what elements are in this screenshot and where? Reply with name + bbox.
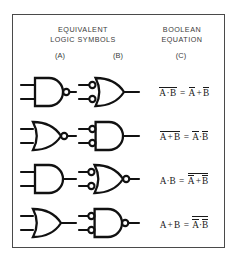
table-row: A·B = A+B <box>13 71 224 115</box>
equation-row1: A·B = A+B <box>159 87 209 98</box>
equation-row3: A·B = A+B <box>160 173 209 187</box>
column-label-b: (B) <box>103 51 133 60</box>
equation-cell-row2: A+B = A·B <box>145 115 223 159</box>
gate-symbol-b-row4 <box>79 204 139 242</box>
column-letter-row: (A) (B) (C) <box>13 51 224 65</box>
gate-symbol-a-row3 <box>19 160 77 198</box>
equation-cell-row4: A+B = A·B <box>145 202 223 246</box>
table-row: A·B = A+B <box>13 158 224 202</box>
equation-row2: A+B = A·B <box>160 131 209 142</box>
header-title-logic-symbols: EQUIVALENT LOGIC SYMBOLS <box>21 25 145 44</box>
gate-symbol-a-row2 <box>19 117 77 155</box>
column-label-c: (C) <box>166 51 196 60</box>
gate-symbol-b-row3 <box>79 160 139 198</box>
gate-symbol-b-row2 <box>79 117 139 155</box>
equivalence-rows: A·B = A+B <box>13 71 224 243</box>
equation-cell-row1: A·B = A+B <box>145 71 223 115</box>
figure-panel: EQUIVALENT LOGIC SYMBOLS BOOLEAN EQUATIO… <box>12 14 225 248</box>
gate-symbol-a-row4 <box>19 204 77 242</box>
table-row: A+B = A·B <box>13 202 224 246</box>
column-label-a: (A) <box>45 51 75 60</box>
table-row: A+B = A·B <box>13 115 224 159</box>
gate-symbol-b-row1 <box>79 73 139 111</box>
equation-row4: A+B = A·B <box>160 216 209 230</box>
header-title-boolean-equation: BOOLEAN EQUATION <box>145 25 219 44</box>
gate-symbol-a-row1 <box>19 73 77 111</box>
equation-cell-row3: A·B = A+B <box>145 158 223 202</box>
